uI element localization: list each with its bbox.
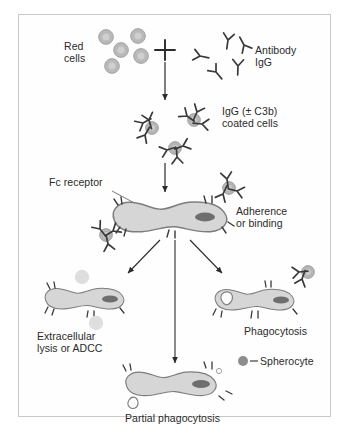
macrophage-nucleus <box>102 295 118 302</box>
plus-sign-graphic <box>155 40 175 60</box>
diagram-canvas: Red cells Antibody IgG IgG (± C3b) coate… <box>0 0 349 438</box>
macrophage-nucleus <box>192 380 210 388</box>
label-phagocytosis: Phagocytosis <box>244 325 307 337</box>
lysed-cell <box>75 270 89 284</box>
phagocytic-vacuole <box>221 292 233 305</box>
arrow-to-phagocytosis <box>190 240 222 273</box>
label-fc-receptor: Fc receptor <box>49 176 103 188</box>
arrow-to-extracellular-lysis <box>128 240 160 273</box>
macrophage-phagocytosis <box>213 266 314 318</box>
red-cell-cluster <box>99 29 149 74</box>
label-red-cells: Red cells <box>64 40 85 65</box>
label-extracellular-lysis-adcc: Extracellular lysis or ADCC <box>37 330 102 355</box>
label-partial-phagocytosis: Partial phagocytosis <box>125 412 220 424</box>
igg-coated-cell-cluster <box>135 104 209 164</box>
macrophage-partial-phagocytosis <box>123 362 232 408</box>
label-coated-cells: IgG (± C3b) coated cells <box>222 105 278 130</box>
lysed-cell <box>89 316 103 330</box>
diagram-graphics <box>0 0 349 438</box>
label-antibody-igg: Antibody IgG <box>255 44 296 69</box>
antibody-cluster <box>193 33 252 82</box>
spherocyte-bud <box>128 397 138 408</box>
spherocyte-dot <box>238 356 248 366</box>
macrophage-nucleus <box>273 296 289 303</box>
macrophage-nucleus <box>195 213 215 222</box>
spherocyte-inclusion <box>216 368 221 373</box>
label-adherence-or-binding: Adherence or binding <box>236 205 287 230</box>
spherocyte-legend <box>238 356 258 366</box>
macrophage-adherence <box>92 172 245 251</box>
label-spherocyte: Spherocyte <box>260 355 314 367</box>
macrophage-extracellular-lysis <box>45 270 124 330</box>
